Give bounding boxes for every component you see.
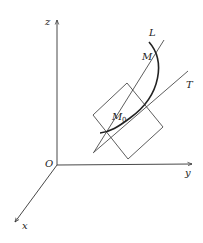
x-label: x [22,220,28,231]
point-M-label: M [141,51,153,62]
x-axis [15,165,57,222]
point-M0-subscript: 0 [122,116,126,124]
y-label: y [184,167,191,178]
axes [15,20,192,222]
y-axis [57,164,192,165]
curve-L-label: L [148,27,156,38]
origin-label: O [45,158,53,169]
tangent-line [93,71,188,153]
tangent-T-label: T [186,79,194,90]
z-label: z [44,16,51,27]
diagram-canvas: z O y x L M M 0 T [0,0,203,243]
